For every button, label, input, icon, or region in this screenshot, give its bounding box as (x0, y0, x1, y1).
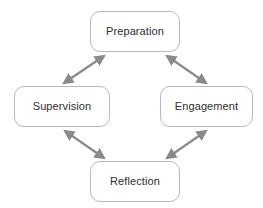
node-reflection[interactable]: Reflection (90, 161, 180, 202)
node-supervision-label: Supervision (33, 101, 92, 112)
edge-engagement-reflection (167, 131, 206, 158)
edge-supervision-reflection (65, 131, 104, 158)
node-reflection-label: Reflection (110, 176, 160, 187)
node-engagement-label: Engagement (175, 101, 238, 112)
cycle-diagram: Preparation Supervision Engagement Refle… (0, 0, 263, 208)
node-preparation-label: Preparation (106, 26, 164, 37)
node-preparation[interactable]: Preparation (90, 11, 180, 52)
node-supervision[interactable]: Supervision (14, 86, 110, 127)
edge-preparation-engagement (167, 56, 206, 83)
edge-preparation-supervision (64, 56, 104, 83)
node-engagement[interactable]: Engagement (160, 86, 253, 127)
